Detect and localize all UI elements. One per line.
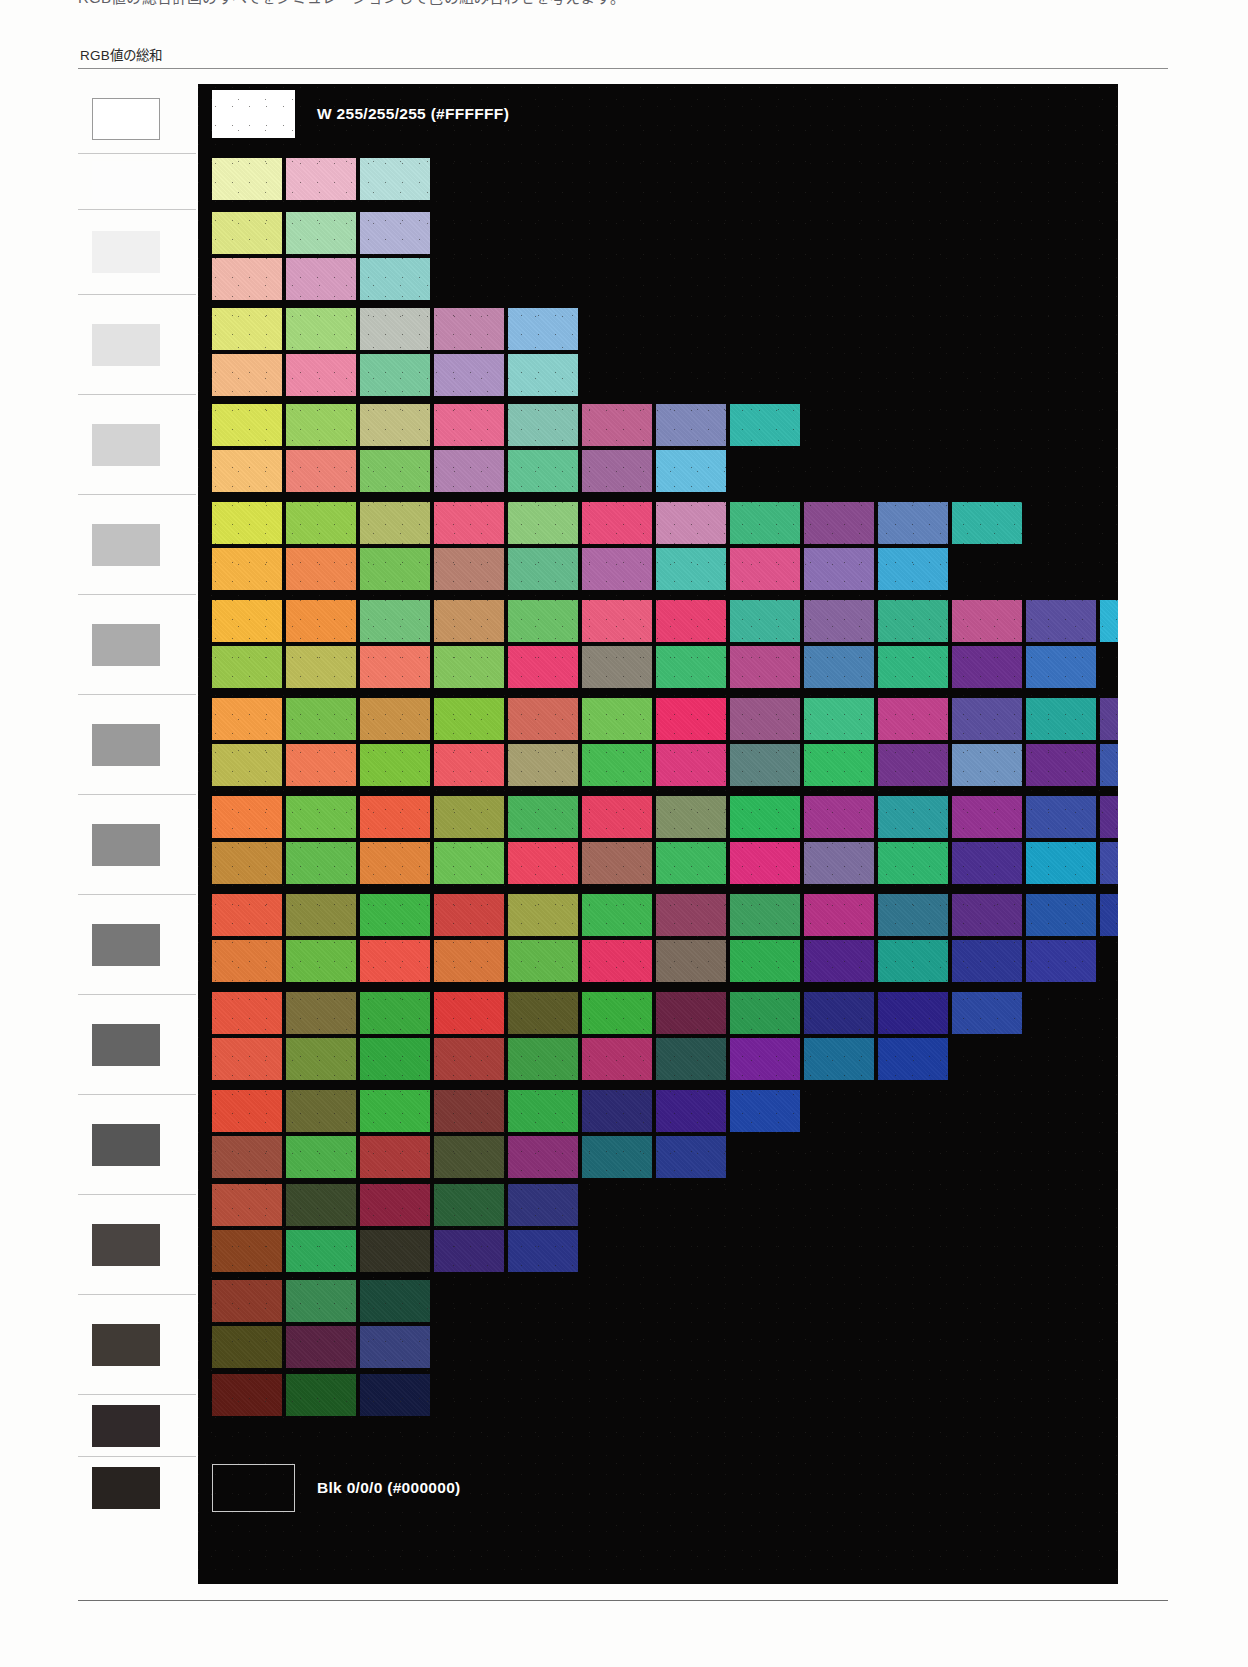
- color-swatch[interactable]: [582, 646, 652, 688]
- color-swatch[interactable]: [212, 354, 282, 396]
- color-swatch[interactable]: [286, 1136, 356, 1178]
- color-swatch[interactable]: [730, 1038, 800, 1080]
- color-swatch[interactable]: [804, 502, 874, 544]
- color-swatch[interactable]: [730, 600, 800, 642]
- color-swatch[interactable]: [360, 698, 430, 740]
- color-swatch[interactable]: [286, 502, 356, 544]
- color-swatch[interactable]: [212, 992, 282, 1034]
- color-swatch[interactable]: [286, 646, 356, 688]
- color-swatch[interactable]: [212, 1038, 282, 1080]
- color-swatch[interactable]: [952, 646, 1022, 688]
- color-swatch[interactable]: [360, 1326, 430, 1368]
- color-swatch[interactable]: [508, 1184, 578, 1226]
- color-swatch[interactable]: [434, 1090, 504, 1132]
- color-swatch[interactable]: [434, 548, 504, 590]
- color-swatch[interactable]: [656, 646, 726, 688]
- color-swatch[interactable]: [212, 894, 282, 936]
- color-swatch[interactable]: [286, 698, 356, 740]
- color-swatch[interactable]: [286, 1090, 356, 1132]
- color-swatch[interactable]: [360, 796, 430, 838]
- color-swatch[interactable]: [212, 1326, 282, 1368]
- color-swatch[interactable]: [1026, 940, 1096, 982]
- color-swatch[interactable]: [360, 1184, 430, 1226]
- color-swatch[interactable]: [434, 646, 504, 688]
- color-swatch[interactable]: [952, 842, 1022, 884]
- color-swatch[interactable]: [1026, 842, 1096, 884]
- color-swatch[interactable]: [878, 548, 948, 590]
- color-swatch[interactable]: [1100, 796, 1118, 838]
- color-swatch[interactable]: [360, 258, 430, 300]
- color-swatch[interactable]: [508, 992, 578, 1034]
- color-swatch[interactable]: [878, 940, 948, 982]
- color-swatch[interactable]: [878, 600, 948, 642]
- color-swatch[interactable]: [804, 992, 874, 1034]
- color-swatch[interactable]: [286, 842, 356, 884]
- color-swatch[interactable]: [212, 1136, 282, 1178]
- color-swatch[interactable]: [656, 796, 726, 838]
- color-swatch[interactable]: [212, 1184, 282, 1226]
- color-swatch[interactable]: [212, 940, 282, 982]
- color-swatch[interactable]: [212, 502, 282, 544]
- color-swatch[interactable]: [582, 600, 652, 642]
- color-swatch[interactable]: [730, 1090, 800, 1132]
- color-swatch[interactable]: [360, 1230, 430, 1272]
- color-swatch[interactable]: [656, 502, 726, 544]
- color-swatch[interactable]: [212, 842, 282, 884]
- color-swatch[interactable]: [434, 1230, 504, 1272]
- color-swatch[interactable]: [582, 940, 652, 982]
- color-swatch[interactable]: [286, 992, 356, 1034]
- color-swatch[interactable]: [656, 698, 726, 740]
- color-swatch[interactable]: [286, 1280, 356, 1322]
- color-swatch[interactable]: [582, 450, 652, 492]
- color-swatch[interactable]: [434, 698, 504, 740]
- color-swatch[interactable]: [508, 354, 578, 396]
- color-swatch[interactable]: [286, 450, 356, 492]
- color-swatch[interactable]: [286, 1230, 356, 1272]
- color-swatch[interactable]: [360, 842, 430, 884]
- color-swatch[interactable]: [878, 698, 948, 740]
- color-swatch[interactable]: [286, 744, 356, 786]
- color-swatch[interactable]: [878, 502, 948, 544]
- color-swatch[interactable]: [212, 450, 282, 492]
- color-swatch[interactable]: [212, 600, 282, 642]
- color-swatch[interactable]: [1100, 842, 1118, 884]
- color-swatch[interactable]: [212, 308, 282, 350]
- color-swatch[interactable]: [360, 600, 430, 642]
- color-swatch[interactable]: [582, 894, 652, 936]
- color-swatch[interactable]: [212, 796, 282, 838]
- color-swatch[interactable]: [434, 894, 504, 936]
- color-swatch[interactable]: [1026, 600, 1096, 642]
- color-swatch[interactable]: [508, 502, 578, 544]
- color-swatch[interactable]: [360, 548, 430, 590]
- color-swatch[interactable]: [212, 1374, 282, 1416]
- color-swatch[interactable]: [508, 894, 578, 936]
- color-swatch[interactable]: [212, 1280, 282, 1322]
- color-swatch[interactable]: [360, 404, 430, 446]
- color-swatch[interactable]: [804, 940, 874, 982]
- black-swatch[interactable]: [212, 1464, 295, 1512]
- color-swatch[interactable]: [1100, 744, 1118, 786]
- color-swatch[interactable]: [286, 308, 356, 350]
- color-swatch[interactable]: [508, 698, 578, 740]
- color-swatch[interactable]: [434, 308, 504, 350]
- color-swatch[interactable]: [360, 308, 430, 350]
- color-swatch[interactable]: [434, 1136, 504, 1178]
- color-swatch[interactable]: [582, 1136, 652, 1178]
- color-swatch[interactable]: [878, 894, 948, 936]
- color-swatch[interactable]: [286, 1038, 356, 1080]
- color-swatch[interactable]: [508, 1090, 578, 1132]
- color-swatch[interactable]: [656, 600, 726, 642]
- color-swatch[interactable]: [360, 354, 430, 396]
- color-swatch[interactable]: [508, 1038, 578, 1080]
- color-swatch[interactable]: [360, 992, 430, 1034]
- color-swatch[interactable]: [582, 1038, 652, 1080]
- color-swatch[interactable]: [952, 940, 1022, 982]
- color-swatch[interactable]: [656, 1038, 726, 1080]
- color-swatch[interactable]: [212, 212, 282, 254]
- color-swatch[interactable]: [434, 450, 504, 492]
- color-swatch[interactable]: [804, 842, 874, 884]
- color-swatch[interactable]: [286, 1184, 356, 1226]
- color-swatch[interactable]: [582, 502, 652, 544]
- color-swatch[interactable]: [804, 698, 874, 740]
- color-swatch[interactable]: [1026, 796, 1096, 838]
